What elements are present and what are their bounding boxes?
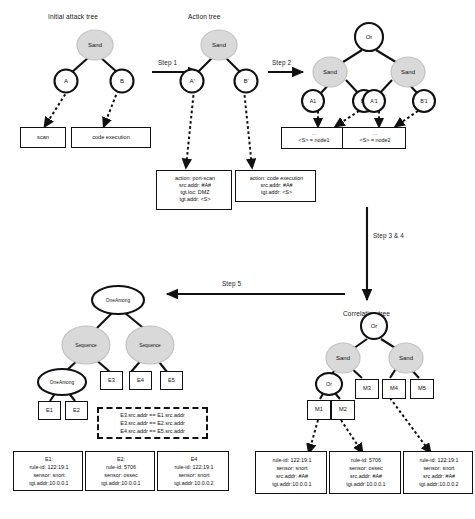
box-code-execution-label: code execution (92, 134, 130, 141)
instantiated-detail-box-2: ... <S> = node2 (342, 127, 406, 149)
correlation-detail-3-line-1: rule-id: 122:19:1 (404, 457, 474, 464)
box-e4-label: E4 (137, 377, 144, 384)
correlation-detail-1-line-4: tgt.addr:10.0.0.1 (256, 481, 328, 488)
box-m3: M3 (355, 379, 379, 399)
box-e4: E4 (129, 371, 152, 390)
correlation-detail-2-line-3: src.addr: #A# (330, 473, 402, 480)
tree2-leaf-links (186, 90, 252, 167)
box-m4: M4 (382, 379, 406, 399)
action-detail-1-line-1: action: port-scan (157, 175, 233, 182)
action-detail-box-2: action: code execution src.addr: #A# tgt… (235, 170, 316, 202)
detection-detail-2-line-4: tgt.addr:10.0.0.1 (86, 480, 156, 487)
action-detail-1-line-3: tgt.loc: DMZ (157, 189, 233, 196)
constraint-line-1: E3.src.addr == E1.src.addr (99, 412, 206, 419)
detection-detail-box-2: E2: rule-id: 5706 sensor: ossec tgt.addr… (85, 451, 155, 491)
step-3-4-label: Step 3 & 4 (373, 232, 404, 239)
box-e1-label: E1 (46, 407, 53, 414)
detection-detail-1-line-4: tgt.addr:10.0.0.1 (14, 480, 84, 487)
correlation-detail-3-line-2: sensor: snort (404, 465, 474, 472)
title-initial-attack-tree: Initial attack tree (48, 13, 98, 20)
detection-detail-3-line-1: E4 (158, 456, 230, 463)
correlation-detail-3-line-4: tgt.addr:10.0.0.2 (404, 481, 474, 488)
detection-detail-2-line-1: E2: (86, 456, 156, 463)
detection-detail-2-line-2: rule-id: 5706 (86, 464, 156, 471)
box-code-execution: code execution (71, 127, 151, 148)
action-detail-1-line-4: tgt.addr: <S> (157, 196, 233, 203)
constraint-line-3: E4.src.addr == E5.src.addr (99, 428, 206, 435)
action-detail-1-line-2: src.addr: #A# (157, 182, 233, 189)
action-detail-2-line-2: src.addr: #A# (236, 182, 317, 189)
box-e3-label: E3 (108, 377, 115, 384)
box-e2: E2 (65, 401, 88, 420)
action-detail-2-line-3: tgt.addr: <S> (236, 189, 317, 196)
step-5-label: Step 5 (222, 280, 241, 287)
step-1-label: Step 1 (158, 59, 177, 66)
box-e5: E5 (160, 371, 183, 390)
detection-detail-1-line-2: rule-id: 122:19:1 (14, 464, 84, 471)
diagram-canvas: Initial attack tree Action tree Correlat… (0, 0, 475, 519)
detection-detail-3-line-2: rule-id: 122:19:1 (158, 464, 230, 471)
tree1-edges (71, 57, 118, 73)
instantiated-detail-1-line-1: ... (282, 130, 346, 137)
correlation-detail-box-3: rule-id: 122:19:1 sensor: snort src.addr… (403, 451, 473, 494)
box-m4-label: M4 (390, 385, 398, 392)
box-m5: M5 (410, 379, 434, 399)
box-m5-label: M5 (418, 385, 426, 392)
correlation-detail-1-line-3: src.addr: #A# (256, 473, 328, 480)
detection-detail-3-line-3: sensor: snort (158, 472, 230, 479)
constraint-line-2: E3.src.addr == E2.src.addr (99, 420, 206, 427)
detection-detail-box-1: E1: rule-id: 122:19:1 sensor: snort tgt.… (13, 451, 83, 491)
detection-detail-box-3: E4 rule-id: 122:19:1 sensor: snort tgt.a… (157, 451, 229, 491)
box-e1: E1 (38, 401, 61, 420)
correlation-detail-3-line-3: src.addr: #A# (404, 473, 474, 480)
step-2-label: Step 2 (272, 59, 291, 66)
box-m2-label: M2 (339, 406, 347, 413)
correlation-detail-1-line-2: sensor: snort (256, 465, 328, 472)
constraints-box: E3.src.addr == E1.src.addr E3.src.addr =… (97, 407, 208, 439)
box-m1-label: M1 (315, 406, 323, 413)
correlation-detail-box-2: rule-id: 5706 sensor: ossec src.addr: #A… (329, 451, 401, 494)
tree2-edges (197, 57, 241, 73)
title-correlation-tree: Correlation tree (343, 310, 390, 317)
correlation-detail-2-line-4: tgt.addr:10.0.0.1 (330, 481, 402, 488)
box-e3: E3 (100, 371, 123, 390)
action-detail-2-line-1: action: code execution (236, 175, 317, 182)
instantiated-detail-box-1: ... <S> = node1 (281, 127, 345, 149)
box-m1: M1 (307, 400, 331, 420)
detection-detail-1-line-1: E1: (14, 456, 84, 463)
tree3-leaf-links (318, 111, 418, 126)
detection-detail-2-line-3: sensor: ossec (86, 472, 156, 479)
tree3-edges (320, 50, 418, 94)
instantiated-detail-2-line-1: ... (343, 130, 407, 137)
correlation-detail-2-line-1: rule-id: 5706 (330, 457, 402, 464)
action-detail-box-1: action: port-scan src.addr: #A# tgt.loc:… (156, 170, 232, 210)
title-action-tree: Action tree (188, 13, 221, 20)
box-scan-label: scan (37, 134, 49, 141)
detection-detail-3-line-4: tgt.addr:10.0.0.2 (158, 480, 230, 487)
correlation-detail-box-1: rule-id: 122:19:1 sensor: snort src.addr… (255, 451, 327, 494)
tree1-leaf-links (45, 90, 118, 126)
box-e2-label: E2 (73, 407, 80, 414)
box-e5-label: E5 (168, 377, 175, 384)
instantiated-detail-2-line-2: <S> = node2 (343, 137, 407, 144)
instantiated-detail-1-line-2: <S> = node1 (282, 137, 346, 144)
diagram-vector-layer (0, 0, 475, 519)
box-scan: scan (20, 127, 66, 148)
correlation-detail-2-line-2: sensor: ossec (330, 465, 402, 472)
correlation-detail-1-line-1: rule-id: 122:19:1 (256, 457, 328, 464)
detection-detail-1-line-3: sensor: snort (14, 472, 84, 479)
box-m2: M2 (331, 400, 355, 420)
box-m3-label: M3 (363, 385, 371, 392)
